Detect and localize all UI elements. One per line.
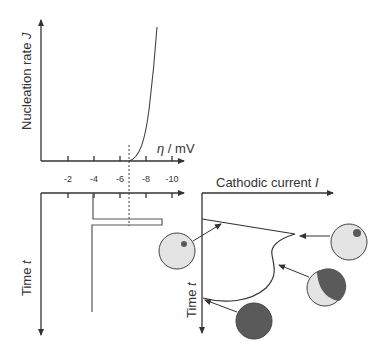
tick-label: -6 [116, 174, 124, 184]
br-title: Cathodic current I [216, 175, 319, 190]
pointer-arrows [193, 224, 330, 312]
tick-label: -8 [142, 174, 150, 184]
tick-label: -10 [165, 174, 178, 184]
top-plot: Nucleation rate J η / mV -2 -4 -6 -8 -10 [19, 20, 195, 184]
nucleus-stage-1 [159, 233, 195, 269]
tick-label: -2 [64, 174, 72, 184]
tick-labels: -2 -4 -6 -8 -10 [64, 174, 179, 184]
nucleus-stage-4-full [236, 303, 272, 339]
diagram-canvas: Nucleation rate J η / mV -2 -4 -6 -8 -10… [0, 0, 385, 356]
nucleus-stage-3 [307, 268, 346, 306]
top-y-label: Nucleation rate J [19, 32, 34, 130]
bl-time-label: Time t [19, 259, 34, 296]
nucleation-diagram: Nucleation rate J η / mV -2 -4 -6 -8 -10… [0, 0, 385, 356]
bottom-left-plot: Time t [19, 193, 184, 335]
potential-pulse [92, 193, 162, 312]
top-x-label: η / mV [157, 141, 195, 156]
nucleation-rate-curve [129, 27, 157, 161]
nucleus-stage-2 [331, 224, 367, 260]
top-ticks [68, 156, 172, 161]
br-time-label: Time t [184, 281, 199, 318]
current-transient [202, 219, 295, 301]
tick-label: -4 [90, 174, 98, 184]
